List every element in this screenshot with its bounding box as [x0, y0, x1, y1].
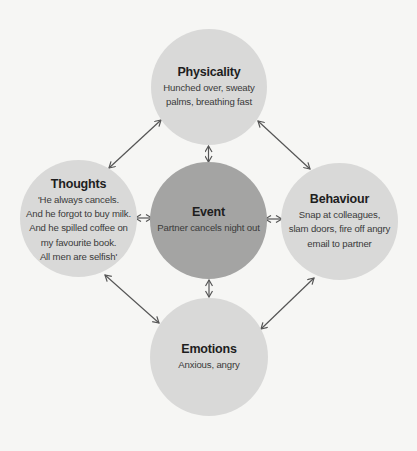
- hot-cross-bun-diagram: Physicality Hunched over, sweaty palms, …: [0, 0, 417, 451]
- node-behaviour: Behaviour Snap at colleagues, slam doors…: [281, 163, 398, 280]
- node-event: Event Partner cancels night out: [150, 162, 267, 279]
- node-title: Thoughts: [51, 177, 106, 191]
- node-emotions: Emotions Anxious, angry: [150, 298, 268, 416]
- node-title: Physicality: [177, 65, 240, 79]
- arrow-thoughts-emotions: [105, 275, 159, 323]
- arrow-thoughts-physicality: [109, 120, 161, 168]
- node-body: 'He always cancels. And he forgot to buy…: [26, 193, 131, 264]
- node-title: Behaviour: [310, 192, 369, 206]
- node-body: Anxious, angry: [178, 358, 239, 372]
- node-title: Emotions: [181, 342, 236, 356]
- arrow-physicality-behaviour: [258, 121, 310, 169]
- node-body: Snap at colleagues, slam doors, fire off…: [289, 208, 391, 251]
- node-physicality: Physicality Hunched over, sweaty palms, …: [151, 29, 267, 145]
- node-body: Hunched over, sweaty palms, breathing fa…: [163, 81, 254, 110]
- arrow-emotions-behaviour: [261, 278, 314, 329]
- node-body: Partner cancels night out: [157, 221, 259, 235]
- node-thoughts: Thoughts 'He always cancels. And he forg…: [20, 160, 137, 277]
- node-title: Event: [192, 205, 225, 219]
